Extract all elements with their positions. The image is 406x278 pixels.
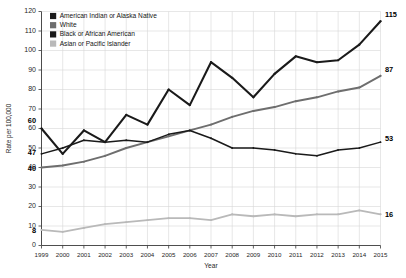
x-tick-label: 2005	[162, 251, 176, 258]
x-axis-title: Year	[204, 262, 218, 269]
series-point-3	[316, 213, 318, 215]
series-point-2	[252, 147, 254, 149]
y-tick-label: 100	[24, 46, 36, 53]
series-point-1	[210, 124, 212, 126]
series-point-3	[337, 213, 339, 215]
series-point-3	[252, 215, 254, 217]
legend-swatch	[50, 13, 56, 19]
y-tick-label: 60	[28, 124, 36, 131]
series-point-3	[147, 219, 149, 221]
series-point-0	[125, 114, 127, 116]
series-point-0	[40, 127, 42, 129]
series-point-1	[358, 87, 360, 89]
chart-canvas: 0102030405060708090100110120199920002001…	[0, 0, 406, 278]
series-point-2	[337, 149, 339, 151]
series-point-2	[295, 153, 297, 155]
series-point-3	[380, 213, 382, 215]
legend-label: Asian or Pacific Islander	[60, 40, 132, 47]
series-point-3	[168, 217, 170, 219]
series-point-0	[337, 59, 339, 61]
series-point-1	[295, 100, 297, 102]
series-point-3	[189, 217, 191, 219]
series-point-3	[104, 223, 106, 225]
series-point-0	[189, 104, 191, 106]
x-tick-label: 2015	[374, 251, 388, 258]
series-point-3	[125, 221, 127, 223]
series-point-0	[146, 124, 148, 126]
series-point-0	[62, 153, 64, 155]
series-point-0	[83, 129, 85, 131]
series-point-2	[274, 149, 276, 151]
end-value-label-0: 115	[385, 10, 397, 19]
series-point-3	[358, 209, 360, 211]
x-tick-label: 2014	[352, 251, 366, 258]
series-point-0	[379, 20, 381, 22]
series-point-1	[337, 90, 339, 92]
x-tick-label: 2000	[56, 251, 70, 258]
series-point-0	[168, 88, 170, 90]
end-value-label-3: 16	[385, 210, 393, 219]
x-tick-label: 2004	[141, 251, 155, 258]
series-point-0	[252, 96, 254, 98]
y-tick-label: 30	[28, 183, 36, 190]
y-tick-label: 70	[28, 105, 36, 112]
series-point-0	[273, 73, 275, 75]
y-tick-label: 0	[32, 241, 36, 248]
series-point-1	[168, 135, 170, 137]
series-point-2	[83, 139, 85, 141]
y-tick-label: 110	[25, 27, 36, 34]
series-point-0	[210, 61, 212, 63]
series-point-1	[252, 110, 254, 112]
end-value-label-1: 87	[385, 65, 393, 74]
series-point-2	[104, 141, 106, 143]
series-point-3	[274, 213, 276, 215]
y-tick-label: 20	[28, 202, 36, 209]
x-tick-label: 2008	[225, 251, 239, 258]
x-tick-label: 2009	[246, 251, 260, 258]
x-tick-label: 2003	[119, 251, 133, 258]
start-value-label-1: 40	[28, 164, 36, 173]
x-tick-label: 1999	[35, 251, 49, 258]
start-value-label-3: 8	[32, 226, 36, 235]
x-tick-label: 2013	[331, 251, 345, 258]
end-value-label-2: 53	[385, 134, 393, 143]
series-point-0	[295, 55, 297, 57]
series-point-1	[104, 155, 106, 157]
series-point-3	[83, 227, 85, 229]
x-tick-label: 2001	[77, 251, 91, 258]
legend-swatch	[50, 22, 56, 28]
series-point-2	[358, 147, 360, 149]
x-tick-label: 2012	[310, 251, 324, 258]
legend-label: American Indian or Alaska Native	[60, 12, 157, 19]
y-axis-title: Rate per 100,000	[5, 103, 13, 153]
start-value-label-0: 60	[28, 116, 36, 125]
x-tick-label: 2010	[268, 251, 282, 258]
series-point-2	[316, 155, 318, 157]
series-point-1	[316, 96, 318, 98]
y-tick-label: 120	[24, 7, 36, 14]
start-value-label-2: 47	[28, 148, 36, 157]
series-point-2	[210, 137, 212, 139]
series-point-0	[231, 77, 233, 79]
series-point-3	[62, 231, 64, 233]
series-point-2	[380, 141, 382, 143]
x-tick-label: 2006	[183, 251, 197, 258]
series-point-3	[231, 213, 233, 215]
series-point-1	[274, 106, 276, 108]
x-tick-label: 2002	[98, 251, 112, 258]
series-point-0	[358, 44, 360, 46]
series-point-1	[231, 116, 233, 118]
legend-swatch	[50, 31, 56, 37]
x-tick-label: 2007	[204, 251, 218, 258]
y-tick-label: 80	[28, 85, 36, 92]
series-point-1	[62, 165, 64, 167]
series-point-1	[83, 161, 85, 163]
y-tick-label: 90	[28, 66, 36, 73]
series-point-1	[380, 75, 382, 77]
series-point-2	[189, 130, 191, 132]
series-point-0	[316, 61, 318, 63]
series-point-3	[210, 219, 212, 221]
series-point-3	[295, 215, 297, 217]
series-point-2	[62, 147, 64, 149]
series-point-2	[125, 139, 127, 141]
